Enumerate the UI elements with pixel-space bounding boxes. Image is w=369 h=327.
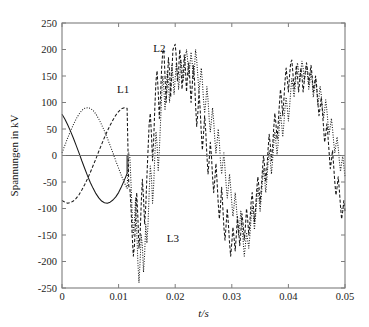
x-tick-label: 0.02 (166, 291, 184, 302)
series-label-l2: L2 (153, 42, 165, 54)
x-tick-label: 0 (59, 291, 64, 302)
x-tick-label: 0.04 (279, 291, 298, 302)
data-traces (62, 44, 345, 283)
y-tick-label: 250 (41, 18, 57, 29)
y-tick-label: -150 (38, 230, 57, 241)
y-tick-label: -100 (38, 203, 57, 214)
x-axis-title: t/s (198, 307, 208, 319)
series-label-l3: L3 (167, 232, 180, 244)
chart-figure: 250200150100500-50-100-150-200-250 00.01… (0, 0, 369, 327)
x-tick-label: 0.03 (223, 291, 241, 302)
x-tick-labels: 00.010.020.030.040.05 (59, 291, 354, 302)
y-tick-label: 100 (41, 97, 57, 108)
y-tick-label: -200 (38, 256, 57, 267)
y-tick-label: -50 (43, 177, 57, 188)
x-tick-label: 0.05 (336, 291, 354, 302)
y-tick-label: 200 (41, 44, 57, 55)
y-tick-label: 150 (41, 71, 57, 82)
y-tick-labels: 250200150100500-50-100-150-200-250 (38, 18, 57, 294)
voltage-waveform-chart: 250200150100500-50-100-150-200-250 00.01… (0, 0, 369, 327)
x-tick-label: 0.01 (109, 291, 127, 302)
y-axis-title: Spannungen in kV (8, 115, 20, 197)
trace-l2 (62, 44, 345, 256)
y-tick-label: 0 (52, 150, 57, 161)
y-tick-label: -250 (38, 283, 57, 294)
y-tick-label: 50 (47, 124, 58, 135)
series-label-l1: L1 (117, 83, 129, 95)
